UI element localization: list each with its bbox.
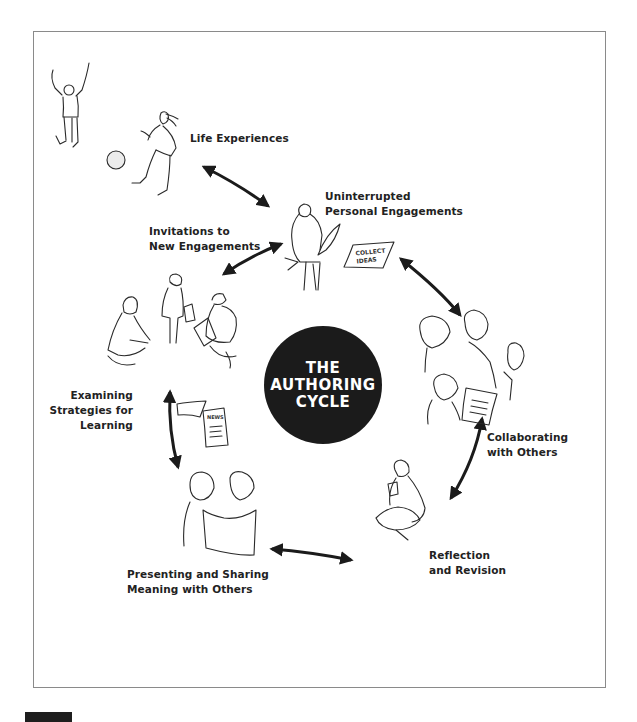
stage-label-line: Collaborating (487, 430, 568, 445)
reading-group-icon (108, 274, 236, 368)
hub-title-line-1: THE (306, 360, 341, 377)
stage-label-line: Examining (50, 388, 134, 403)
collaborating-group-icon (420, 310, 524, 425)
stage-label-line: Presenting and Sharing (127, 567, 269, 582)
soccer-player-icon (132, 112, 178, 195)
stage-examining-strategies: Examining Strategies for Learning (50, 388, 134, 433)
stage-label-line: Learning (50, 418, 134, 433)
hub-title-line-3: CYCLE (296, 394, 351, 411)
arrow-life-to-uninterrupted (204, 167, 268, 206)
stage-label-line: Reflection (429, 548, 506, 563)
newspapers-icon (177, 401, 228, 447)
stage-label-line: Uninterrupted (325, 189, 463, 204)
soccer-ball-icon (107, 151, 125, 169)
news-note: NEWS (207, 414, 224, 420)
stage-label-line: Personal Engagements (325, 204, 463, 219)
stage-life-experiences: Life Experiences (190, 131, 289, 146)
page-footer-tab (25, 712, 72, 722)
presenting-pair-icon (184, 472, 256, 556)
stage-reflection-and-revision: Reflection and Revision (429, 548, 506, 578)
collect-ideas-note: COLLECT IDEAS (355, 246, 386, 265)
stage-label-line: Meaning with Others (127, 582, 269, 597)
stage-label-line: Life Experiences (190, 131, 289, 146)
stage-uninterrupted-personal-engagements: Uninterrupted Personal Engagements (325, 189, 463, 219)
arrow-uninterrupted-to-collaborating (401, 259, 460, 315)
hub-title-line-2: AUTHORING (270, 377, 375, 394)
authoring-cycle-hub: THE AUTHORING CYCLE (264, 326, 382, 444)
cheering-person-icon (52, 63, 89, 147)
stage-label-line: Invitations to (149, 224, 260, 239)
stage-label-line: and Revision (429, 563, 506, 578)
stage-presenting-and-sharing: Presenting and Sharing Meaning with Othe… (127, 567, 269, 597)
arrow-presenting-to-examining (170, 392, 178, 467)
stage-label-line: Strategies for (50, 403, 134, 418)
stage-collaborating-with-others: Collaborating with Others (487, 430, 568, 460)
stage-label-line: New Engagements (149, 239, 260, 254)
arrow-reflection-to-presenting (272, 549, 351, 560)
reflecting-person-icon (376, 460, 425, 540)
stage-label-line: with Others (487, 445, 568, 460)
arrow-collaborating-to-reflection (451, 419, 482, 498)
stage-invitations-new-engagements: Invitations to New Engagements (149, 224, 260, 254)
